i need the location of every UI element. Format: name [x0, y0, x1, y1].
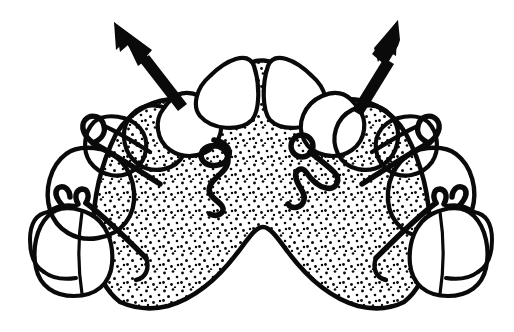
upper-right-second-molar	[35, 208, 113, 296]
appliance-diagram	[0, 0, 514, 332]
upper-left-second-molar	[410, 208, 488, 296]
figure-root: Maxillary removable expansion appliance …	[0, 0, 514, 332]
